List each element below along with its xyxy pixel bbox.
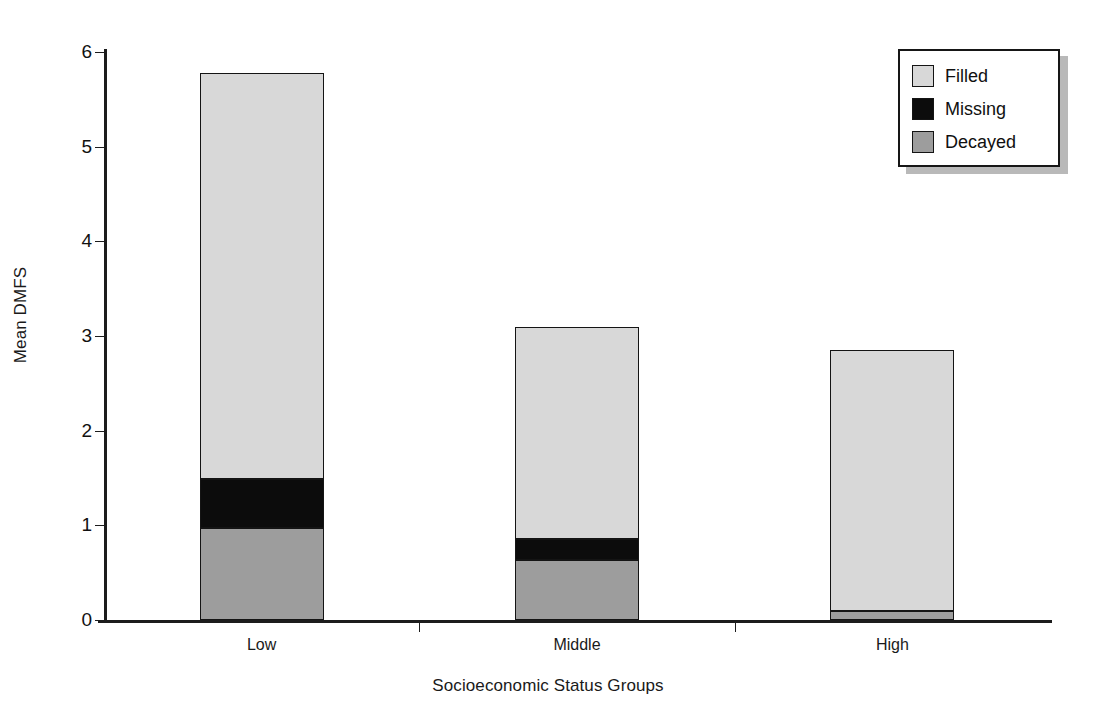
y-tick-label: 5 — [52, 137, 92, 156]
bar-segment-decayed — [830, 611, 954, 620]
chart-legend: FilledMissingDecayed — [898, 49, 1060, 167]
x-tick-mark — [735, 620, 736, 632]
legend-item: Missing — [912, 94, 1006, 124]
legend-swatch-icon — [912, 98, 934, 120]
legend-item: Decayed — [912, 127, 1016, 157]
legend-item: Filled — [912, 61, 988, 91]
y-tick-mark — [95, 52, 105, 53]
bar-segment-decayed — [200, 528, 324, 620]
y-axis-title: Mean DMFS — [11, 255, 31, 375]
x-category-label: Low — [182, 636, 342, 654]
stacked-bar-chart: Mean DMFS 0123456LowMiddleHigh Socioecon… — [0, 0, 1096, 708]
legend-label: Missing — [945, 99, 1006, 120]
y-tick-mark — [95, 147, 105, 148]
x-axis-line — [98, 620, 1052, 623]
bar-group — [515, 52, 639, 620]
bar-segment-filled — [830, 350, 954, 611]
y-tick-mark — [95, 336, 105, 337]
y-tick-label: 1 — [52, 515, 92, 534]
bar-segment-filled — [515, 327, 639, 539]
y-tick-label: 3 — [52, 326, 92, 345]
bar-segment-missing — [200, 479, 324, 528]
y-tick-mark — [95, 431, 105, 432]
y-tick-mark — [95, 620, 105, 621]
x-axis-title: Socioeconomic Status Groups — [0, 676, 1096, 696]
y-tick-label: 2 — [52, 421, 92, 440]
y-tick-label: 4 — [52, 231, 92, 250]
bar-segment-missing — [515, 539, 639, 561]
y-tick-label: 6 — [52, 42, 92, 61]
legend-label: Filled — [945, 66, 988, 87]
legend-swatch-icon — [912, 131, 934, 153]
x-category-label: Middle — [497, 636, 657, 654]
bar-segment-decayed — [515, 560, 639, 620]
y-tick-mark — [95, 525, 105, 526]
bar-segment-filled — [200, 73, 324, 479]
bar-group — [200, 52, 324, 620]
y-tick-label: 0 — [52, 610, 92, 629]
legend-label: Decayed — [945, 132, 1016, 153]
x-tick-mark — [419, 620, 420, 632]
legend-swatch-icon — [912, 65, 934, 87]
x-category-label: High — [812, 636, 972, 654]
y-tick-mark — [95, 241, 105, 242]
